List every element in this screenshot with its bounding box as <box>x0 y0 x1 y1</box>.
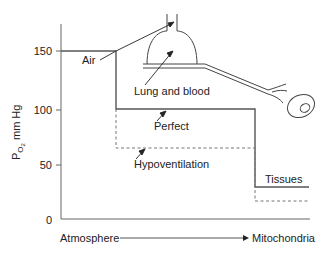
label-perfect: Perfect <box>154 120 189 132</box>
label-air: Air <box>82 54 96 66</box>
tick-0: 0 <box>46 214 52 226</box>
y-axis-label: PO2 mm Hg <box>10 105 26 160</box>
tick-150: 150 <box>34 45 52 57</box>
svg-text:PO2 mm Hg: PO2 mm Hg <box>10 105 26 160</box>
label-mitochondria: Mitochondria <box>252 232 316 244</box>
label-atmosphere: Atmosphere <box>60 232 119 244</box>
y-axis-ticks: 150 100 50 0 <box>34 45 61 226</box>
lung-alveolus-icon <box>143 14 318 122</box>
direction-arrow-head-icon <box>243 235 249 241</box>
label-tissues: Tissues <box>265 173 303 185</box>
label-lung-and-blood: Lung and blood <box>134 85 210 97</box>
label-hypoventilation: Hypoventilation <box>134 158 209 170</box>
tick-100: 100 <box>34 104 52 116</box>
tick-50: 50 <box>40 159 52 171</box>
oxygen-cascade-diagram: 150 100 50 0 PO2 mm Hg <box>0 0 325 255</box>
